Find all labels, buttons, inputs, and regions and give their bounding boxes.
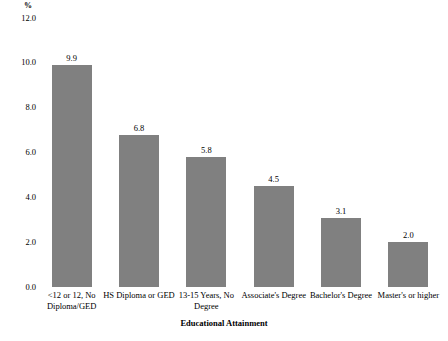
bar-slot: 6.8 bbox=[105, 18, 172, 287]
bar[interactable] bbox=[254, 186, 294, 287]
x-axis-tick-label: HS Diploma or GED bbox=[103, 290, 175, 301]
y-axis-tick-labels: 12.0 10.0 8.0 6.0 4.0 2.0 0.0 bbox=[0, 0, 36, 341]
bar-slot: 2.0 bbox=[375, 18, 442, 287]
x-axis-title: Educational Attainment bbox=[0, 318, 448, 328]
x-axis-tick-label: <12 or 12, No Diploma/GED bbox=[36, 290, 108, 311]
bar-slot: 3.1 bbox=[307, 18, 374, 287]
bar-value-label: 2.0 bbox=[403, 231, 414, 240]
y-axis-tick-label: 8.0 bbox=[0, 103, 36, 112]
y-axis-tick-label: 0.0 bbox=[0, 283, 36, 292]
y-axis-tick-label: 6.0 bbox=[0, 148, 36, 157]
x-axis-tick-label: 13-15 Years, No Degree bbox=[170, 290, 242, 311]
bar[interactable] bbox=[388, 242, 428, 287]
y-axis-tick-label: 10.0 bbox=[0, 58, 36, 67]
bar-slot: 9.9 bbox=[38, 18, 105, 287]
y-axis-tick-label: 2.0 bbox=[0, 238, 36, 247]
bar-value-label: 9.9 bbox=[66, 54, 77, 63]
bar[interactable] bbox=[119, 135, 159, 287]
bar[interactable] bbox=[186, 157, 226, 287]
y-axis-tick-label: 4.0 bbox=[0, 193, 36, 202]
bar-value-label: 6.8 bbox=[134, 124, 145, 133]
bar-chart: % 12.0 10.0 8.0 6.0 4.0 2.0 0.0 9.9 6.8 … bbox=[0, 0, 448, 341]
bar-slot: 4.5 bbox=[240, 18, 307, 287]
x-axis-tick-label: Bachelor's Degree bbox=[305, 290, 377, 301]
plot-area: 9.9 6.8 5.8 4.5 3.1 2.0 bbox=[38, 18, 442, 287]
bar[interactable] bbox=[52, 65, 92, 287]
x-axis-tick-label: Associate's Degree bbox=[238, 290, 310, 301]
y-axis-tick-label: 12.0 bbox=[0, 14, 36, 23]
bar[interactable] bbox=[321, 218, 361, 287]
bar-value-label: 4.5 bbox=[268, 175, 279, 184]
bar-slot: 5.8 bbox=[173, 18, 240, 287]
bar-value-label: 5.8 bbox=[201, 146, 212, 155]
x-axis-tick-label: Master's or higher bbox=[372, 290, 444, 301]
bar-value-label: 3.1 bbox=[336, 207, 347, 216]
x-axis-category-labels: <12 or 12, No Diploma/GED HS Diploma or … bbox=[38, 290, 442, 320]
